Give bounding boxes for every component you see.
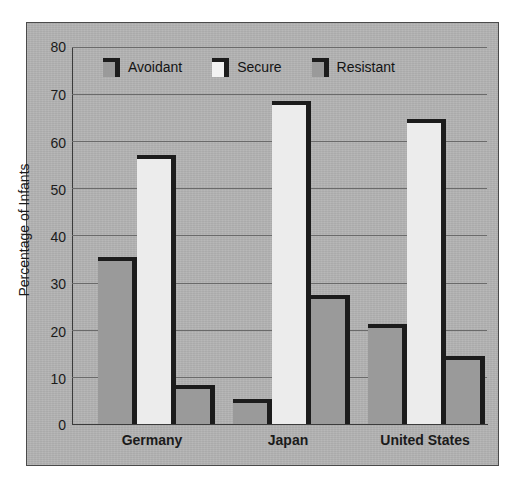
bar-united-states-resistant (446, 356, 485, 424)
bar-united-states-avoidant (368, 324, 407, 424)
y-tick-0: 0 (26, 418, 66, 432)
legend-label-resistant: Resistant (337, 59, 395, 75)
bar-face (98, 257, 137, 424)
gridline-80 (72, 47, 487, 48)
y-tick-30: 30 (26, 277, 66, 291)
bar-face (446, 356, 485, 424)
legend-swatch-icon (103, 58, 120, 77)
bar-japan-resistant (311, 295, 350, 424)
y-tick-10: 10 (26, 372, 66, 386)
gridline-70 (72, 94, 487, 95)
y-tick-70: 70 (26, 88, 66, 102)
y-tick-80: 80 (26, 40, 66, 54)
legend-item-avoidant: Avoidant (103, 58, 182, 77)
y-axis-tick-labels: 80 70 60 50 40 30 20 10 0 (22, 0, 66, 485)
y-tick-50: 50 (26, 183, 66, 197)
bar-face (233, 399, 272, 424)
legend-swatch-icon (312, 58, 329, 77)
bar-face (407, 119, 446, 424)
bar-face (176, 385, 215, 424)
x-tick-japan: Japan (248, 432, 328, 448)
chart-figure: Percentage of Infants 80 70 60 50 40 30 … (0, 0, 525, 485)
x-tick-united-states: United States (370, 432, 480, 448)
legend-label-avoidant: Avoidant (128, 59, 182, 75)
bar-face (311, 295, 350, 424)
legend-item-resistant: Resistant (312, 58, 395, 77)
bar-germany-resistant (176, 385, 215, 424)
legend-item-secure: Secure (212, 58, 281, 77)
bar-face (137, 155, 176, 424)
bar-japan-avoidant (233, 399, 272, 424)
legend-label-secure: Secure (237, 59, 281, 75)
bar-germany-avoidant (98, 257, 137, 424)
y-tick-20: 20 (26, 325, 66, 339)
bar-united-states-secure (407, 119, 446, 424)
x-axis-line (72, 424, 488, 425)
y-tick-60: 60 (26, 136, 66, 150)
bar-japan-secure (272, 101, 311, 424)
plot-area (72, 47, 487, 424)
y-tick-40: 40 (26, 230, 66, 244)
legend-swatch-icon (212, 58, 229, 77)
bar-face (272, 101, 311, 424)
x-tick-germany: Germany (112, 432, 192, 448)
bar-face (368, 324, 407, 424)
bar-germany-secure (137, 155, 176, 424)
chart-legend: Avoidant Secure Resistant (103, 53, 425, 81)
